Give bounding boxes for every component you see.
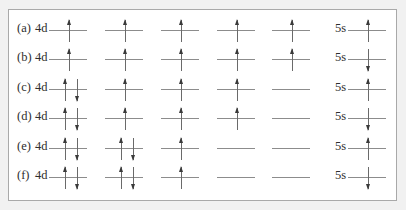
spin-up-arrow-icon xyxy=(181,79,182,101)
subshell-5s-label: 5s xyxy=(335,51,346,64)
spin-down-arrow-icon xyxy=(133,167,134,189)
spin-up-arrow-icon xyxy=(181,138,182,160)
spin-up-arrow-icon xyxy=(237,20,238,42)
orbital-4d-2 xyxy=(105,166,143,192)
spin-up-arrow-icon xyxy=(237,108,238,130)
orbital-4d-2 xyxy=(105,19,143,45)
spin-up-arrow-icon xyxy=(181,20,182,42)
subshell-4d-label: 4d xyxy=(35,22,48,35)
orbital-4d-5 xyxy=(272,48,310,74)
option-label: (d) xyxy=(17,110,32,123)
spin-down-arrow-icon xyxy=(77,79,78,101)
orbital-4d-1 xyxy=(49,48,87,74)
spin-up-arrow-icon xyxy=(69,49,70,71)
spin-up-arrow-icon xyxy=(368,79,369,101)
orbital-4d-3 xyxy=(161,107,199,133)
subshell-5s-label: 5s xyxy=(335,140,346,153)
spin-up-arrow-icon xyxy=(65,79,66,101)
orbital-5s xyxy=(348,166,386,192)
orbital-4d-1 xyxy=(49,137,87,163)
orbital-4d-4 xyxy=(217,19,255,45)
orbital-4d-1 xyxy=(49,19,87,45)
spin-down-arrow-icon xyxy=(77,167,78,189)
option-label: (c) xyxy=(17,81,31,94)
spin-up-arrow-icon xyxy=(181,49,182,71)
subshell-4d-label: 4d xyxy=(35,169,48,182)
spin-up-arrow-icon xyxy=(237,49,238,71)
spin-up-arrow-icon xyxy=(65,108,66,130)
subshell-4d-label: 4d xyxy=(35,140,48,153)
spin-up-arrow-icon xyxy=(368,138,369,160)
subshell-5s-label: 5s xyxy=(335,81,346,94)
option-label: (f) xyxy=(17,169,30,182)
spin-down-arrow-icon xyxy=(368,167,369,189)
orbital-4d-4 xyxy=(217,48,255,74)
option-label: (e) xyxy=(17,140,31,153)
spin-down-arrow-icon xyxy=(77,108,78,130)
spin-up-arrow-icon xyxy=(65,167,66,189)
spin-up-arrow-icon xyxy=(181,167,182,189)
orbital-4d-2 xyxy=(105,78,143,104)
spin-down-arrow-icon xyxy=(368,49,369,71)
orbital-4d-4 xyxy=(217,107,255,133)
orbital-4d-4 xyxy=(217,137,255,163)
orbital-4d-4 xyxy=(217,78,255,104)
spin-up-arrow-icon xyxy=(181,108,182,130)
spin-up-arrow-icon xyxy=(125,108,126,130)
orbital-4d-5 xyxy=(272,137,310,163)
orbital-5s xyxy=(348,19,386,45)
subshell-4d-label: 4d xyxy=(35,51,48,64)
orbital-5s xyxy=(348,78,386,104)
subshell-5s-label: 5s xyxy=(335,22,346,35)
orbital-4d-4 xyxy=(217,166,255,192)
orbital-4d-5 xyxy=(272,19,310,45)
subshell-5s-label: 5s xyxy=(335,169,346,182)
spin-down-arrow-icon xyxy=(133,138,134,160)
subshell-4d-label: 4d xyxy=(35,110,48,123)
orbital-4d-5 xyxy=(272,166,310,192)
orbital-4d-5 xyxy=(272,78,310,104)
spin-up-arrow-icon xyxy=(121,167,122,189)
orbital-4d-1 xyxy=(49,78,87,104)
orbital-4d-3 xyxy=(161,137,199,163)
orbital-4d-3 xyxy=(161,166,199,192)
orbital-4d-2 xyxy=(105,107,143,133)
orbital-5s xyxy=(348,107,386,133)
orbital-5s xyxy=(348,48,386,74)
spin-up-arrow-icon xyxy=(69,20,70,42)
spin-up-arrow-icon xyxy=(121,138,122,160)
orbital-4d-1 xyxy=(49,166,87,192)
orbital-4d-3 xyxy=(161,48,199,74)
spin-up-arrow-icon xyxy=(125,79,126,101)
spin-up-arrow-icon xyxy=(125,20,126,42)
spin-down-arrow-icon xyxy=(368,108,369,130)
orbital-4d-3 xyxy=(161,78,199,104)
subshell-5s-label: 5s xyxy=(335,110,346,123)
spin-up-arrow-icon xyxy=(292,49,293,71)
spin-up-arrow-icon xyxy=(125,49,126,71)
orbital-4d-2 xyxy=(105,48,143,74)
spin-up-arrow-icon xyxy=(292,20,293,42)
orbital-4d-2 xyxy=(105,137,143,163)
orbital-4d-3 xyxy=(161,19,199,45)
orbital-4d-1 xyxy=(49,107,87,133)
option-label: (a) xyxy=(17,22,31,35)
subshell-4d-label: 4d xyxy=(35,81,48,94)
spin-up-arrow-icon xyxy=(65,138,66,160)
spin-down-arrow-icon xyxy=(77,138,78,160)
orbital-4d-5 xyxy=(272,107,310,133)
orbital-5s xyxy=(348,137,386,163)
option-label: (b) xyxy=(17,51,32,64)
spin-up-arrow-icon xyxy=(368,20,369,42)
spin-up-arrow-icon xyxy=(237,79,238,101)
